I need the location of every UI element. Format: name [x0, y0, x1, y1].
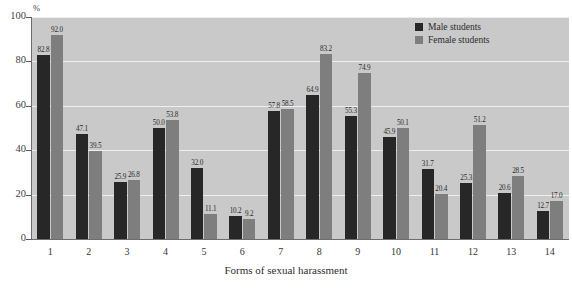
bar-value-label: 58.5: [277, 100, 299, 108]
x-axis-tick-label-2: 2: [74, 246, 104, 257]
bar-value-label: 32.0: [186, 159, 208, 167]
bar-female-3: [128, 180, 141, 239]
x-axis-line: [31, 239, 569, 240]
bar-male-7: [268, 111, 281, 239]
legend-label: Male students: [428, 22, 481, 32]
bar-value-label: 47.1: [71, 125, 93, 133]
bar-value-label: 83.2: [315, 45, 337, 53]
bar-female-11: [435, 194, 448, 239]
y-axis-tick-label: 100: [0, 10, 32, 21]
bar-female-13: [512, 176, 525, 239]
bar-female-5: [204, 214, 217, 239]
x-axis-tick-label-14: 14: [535, 246, 565, 257]
bar-female-6: [243, 219, 256, 239]
x-axis-tick-label-6: 6: [227, 246, 257, 257]
bar-male-12: [460, 183, 473, 239]
bar-female-7: [281, 109, 294, 239]
bar-value-label: 26.8: [123, 171, 145, 179]
bar-female-14: [550, 201, 563, 239]
bar-male-8: [306, 95, 319, 239]
y-axis-tick-label: 40: [0, 143, 32, 154]
bar-female-4: [166, 120, 179, 239]
bar-female-9: [358, 73, 371, 239]
y-axis-tick-label: 0: [0, 232, 32, 243]
gridline: [31, 106, 569, 107]
bar-value-label: 74.9: [353, 64, 375, 72]
gridline: [31, 61, 569, 62]
bar-chart: % 020406080100 1234567891011121314 82.89…: [0, 0, 572, 288]
bar-male-4: [153, 128, 166, 239]
x-axis-tick-label-8: 8: [304, 246, 334, 257]
bar-value-label: 11.1: [200, 205, 222, 213]
x-axis-tick-label-12: 12: [458, 246, 488, 257]
bar-male-6: [229, 216, 242, 239]
plot-area: [31, 17, 569, 239]
chart-legend: Male studentsFemale students: [415, 22, 489, 48]
bar-value-label: 17.0: [546, 192, 568, 200]
y-axis-unit-label: %: [33, 3, 40, 13]
bar-female-8: [320, 54, 333, 239]
x-axis-tick-label-5: 5: [189, 246, 219, 257]
x-axis-tick-label-3: 3: [112, 246, 142, 257]
legend-swatch-female-icon: [415, 36, 423, 44]
bar-value-label: 53.8: [161, 111, 183, 119]
bar-value-label: 39.5: [84, 142, 106, 150]
y-axis-tick-label: 20: [0, 188, 32, 199]
gridline: [31, 150, 569, 151]
x-axis-tick-label-7: 7: [266, 246, 296, 257]
x-axis-tick-label-9: 9: [343, 246, 373, 257]
gridline: [31, 195, 569, 196]
bar-value-label: 28.5: [507, 167, 529, 175]
bar-male-14: [537, 211, 550, 239]
legend-item-female: Female students: [415, 35, 489, 45]
legend-label: Female students: [428, 35, 489, 45]
x-axis-tick-label-4: 4: [151, 246, 181, 257]
x-axis-title: Forms of sexual harassment: [0, 264, 572, 276]
bar-value-label: 51.2: [469, 116, 491, 124]
x-axis-tick-label-1: 1: [35, 246, 65, 257]
gridline: [31, 17, 569, 18]
bar-value-label: 50.1: [392, 119, 414, 127]
bar-female-1: [51, 35, 64, 239]
bar-male-1: [37, 55, 50, 239]
y-axis-tick-label: 80: [0, 54, 32, 65]
bar-value-label: 92.0: [46, 26, 68, 34]
x-axis-tick-label-10: 10: [381, 246, 411, 257]
bar-female-12: [473, 125, 486, 239]
legend-swatch-male-icon: [415, 23, 423, 31]
bar-male-9: [345, 116, 358, 239]
x-axis-tick-label-11: 11: [420, 246, 450, 257]
bar-male-11: [422, 169, 435, 239]
bar-value-label: 31.7: [417, 160, 439, 168]
bar-value-label: 9.2: [238, 210, 260, 218]
bar-male-10: [383, 137, 396, 239]
bar-male-5: [191, 168, 204, 239]
bar-male-13: [498, 193, 511, 239]
bar-female-2: [89, 151, 102, 239]
y-axis-tick-label: 60: [0, 99, 32, 110]
bar-female-10: [397, 128, 410, 239]
x-axis-tick-label-13: 13: [496, 246, 526, 257]
legend-item-male: Male students: [415, 22, 489, 32]
bar-male-3: [114, 182, 127, 239]
bar-value-label: 20.4: [430, 185, 452, 193]
